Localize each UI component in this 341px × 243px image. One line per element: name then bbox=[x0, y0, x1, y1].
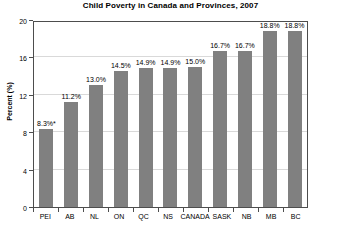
x-axis-tick-label: PEI bbox=[33, 213, 58, 220]
x-axis-tick-label: NL bbox=[82, 213, 107, 220]
bar-chart: Child Poverty in Canada and Provinces, 2… bbox=[0, 0, 341, 243]
x-axis-tick-mark-slot bbox=[108, 208, 133, 212]
x-axis-tick-label: MB bbox=[259, 213, 284, 220]
bar-slot: 18.8% bbox=[257, 22, 282, 207]
x-axis-tick-mark bbox=[158, 208, 159, 212]
bars-container: 8.3%*11.2%13.0%14.5%14.9%14.9%15.0%16.7%… bbox=[34, 22, 307, 207]
x-axis-tick-mark-slot bbox=[233, 208, 258, 212]
x-axis-tick-mark-slot bbox=[208, 208, 233, 212]
bar[interactable] bbox=[213, 51, 227, 207]
bar[interactable] bbox=[64, 102, 78, 207]
x-axis-tick-mark bbox=[208, 208, 209, 212]
bar-slot: 14.9% bbox=[133, 22, 158, 207]
y-axis-tick-label: 8 bbox=[1, 130, 27, 137]
x-axis-tick-label: AB bbox=[58, 213, 83, 220]
y-axis-tick-label: 12 bbox=[1, 92, 27, 99]
x-axis-tick-mark-slot bbox=[133, 208, 158, 212]
bar-slot: 14.5% bbox=[108, 22, 133, 207]
bar-slot: 15.0% bbox=[183, 22, 208, 207]
x-axis-tick-mark bbox=[33, 208, 34, 212]
bar[interactable] bbox=[39, 129, 53, 207]
x-axis-tick-mark bbox=[183, 208, 184, 212]
y-axis-tick-label: 16 bbox=[1, 55, 27, 62]
x-axis-tick-marks bbox=[33, 208, 308, 212]
x-axis-tick-mark bbox=[258, 208, 259, 212]
bar[interactable] bbox=[238, 51, 252, 207]
x-axis-tick-mark bbox=[58, 208, 59, 212]
x-axis-tick-label: NB bbox=[234, 213, 259, 220]
bar-slot: 13.0% bbox=[84, 22, 109, 207]
bar[interactable] bbox=[89, 85, 103, 207]
x-axis-tick-mark-slot bbox=[33, 208, 58, 212]
x-axis-tick-label: QC bbox=[131, 213, 156, 220]
x-axis-tick-mark-slot bbox=[183, 208, 208, 212]
x-axis-tick-label: BC bbox=[283, 213, 308, 220]
bar[interactable] bbox=[114, 71, 128, 207]
x-axis-tick-mark bbox=[233, 208, 234, 212]
x-axis-tick-mark-slot bbox=[83, 208, 108, 212]
bar[interactable] bbox=[139, 68, 153, 207]
bar-slot: 16.7% bbox=[208, 22, 233, 207]
x-axis-tick-label: NS bbox=[156, 213, 181, 220]
x-axis-labels: PEIABNLONQCNSCANADASASKNBMBBC bbox=[33, 213, 308, 220]
y-axis: 048121620 bbox=[0, 21, 33, 208]
y-axis-tick-label: 20 bbox=[1, 18, 27, 25]
chart-title: Child Poverty in Canada and Provinces, 2… bbox=[0, 1, 341, 10]
x-axis-tick-mark-slot bbox=[158, 208, 183, 212]
y-axis-tick-label: 4 bbox=[1, 167, 27, 174]
x-axis-tick-label: SASK bbox=[210, 213, 235, 220]
bar[interactable] bbox=[163, 68, 177, 207]
bar[interactable] bbox=[288, 31, 302, 207]
x-axis-tick-mark bbox=[283, 208, 284, 212]
x-axis-tick-mark bbox=[83, 208, 84, 212]
x-axis-tick-mark-slot bbox=[58, 208, 83, 212]
bar[interactable] bbox=[263, 31, 277, 207]
bar-slot: 11.2% bbox=[59, 22, 84, 207]
plot-area: 8.3%*11.2%13.0%14.5%14.9%14.9%15.0%16.7%… bbox=[33, 21, 308, 208]
x-axis-tick-mark bbox=[133, 208, 134, 212]
bar-slot: 18.8% bbox=[282, 22, 307, 207]
x-axis-tick-mark-slot bbox=[258, 208, 283, 212]
bar-slot: 8.3%* bbox=[34, 22, 59, 207]
x-axis-tick-label: CANADA bbox=[180, 213, 209, 220]
bar-slot: 16.7% bbox=[233, 22, 258, 207]
bar-value-label: 18.8% bbox=[275, 22, 315, 29]
y-axis-tick-label: 0 bbox=[1, 205, 27, 212]
x-axis-tick-mark-slot bbox=[283, 208, 308, 212]
x-axis-tick-mark bbox=[108, 208, 109, 212]
bar-slot: 14.9% bbox=[158, 22, 183, 207]
bar[interactable] bbox=[188, 67, 202, 207]
x-axis-tick-label: ON bbox=[107, 213, 132, 220]
